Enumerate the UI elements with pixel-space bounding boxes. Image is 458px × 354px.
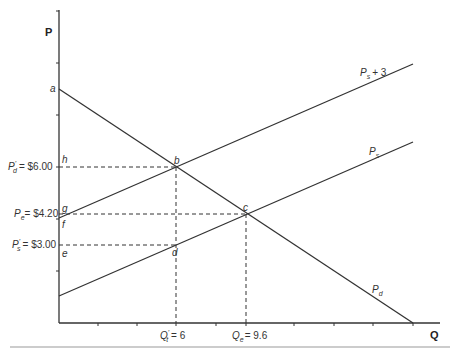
- point-c: c: [243, 202, 248, 213]
- tax-incidence-diagram: P Q a h g f e b c d Ps+ 3 Ps Pd P'd= $6.…: [0, 0, 458, 354]
- label-supply-plus-tax: Ps+ 3: [360, 67, 387, 80]
- point-d: d: [172, 247, 178, 258]
- price-label-pe: Pe= $4.20: [14, 208, 59, 221]
- point-b: b: [174, 155, 180, 166]
- quantity-label-qe: Qe= 9.6: [232, 330, 268, 343]
- label-supply: Ps: [369, 146, 380, 159]
- x-axis-label: Q: [430, 329, 439, 341]
- dashed-guides: [59, 167, 246, 323]
- point-a: a: [50, 83, 56, 94]
- quantity-label-qt: Q't= 6: [160, 329, 186, 343]
- point-h: h: [62, 154, 68, 165]
- supply-curve: [59, 142, 413, 296]
- demand-curve: [59, 89, 413, 323]
- point-g: g: [62, 203, 68, 214]
- price-label-ps: P's= $3.00: [12, 238, 57, 252]
- point-e: e: [62, 248, 68, 259]
- point-f: f: [62, 219, 66, 230]
- y-axis-label: P: [45, 26, 52, 38]
- label-demand: Pd: [372, 284, 384, 297]
- price-label-pd: P'd= $6.00: [8, 160, 53, 174]
- supply-plus-tax-curve: [59, 64, 413, 218]
